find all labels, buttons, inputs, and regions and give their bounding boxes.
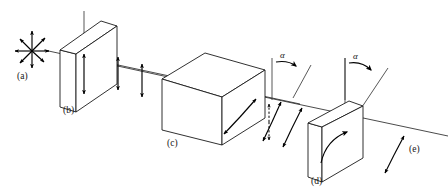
angle-annotation-first — [272, 58, 311, 100]
alpha-label-first: α — [280, 50, 285, 60]
rotated-polarization-arrow-2 — [283, 108, 302, 147]
output-polarization-arrow — [385, 136, 404, 173]
unpolarized-light-star — [15, 31, 49, 68]
optics-canvas: (a) (b) — [0, 0, 448, 192]
label-d: (d) — [311, 176, 322, 187]
optics-diagram: (a) (b) — [0, 0, 448, 192]
label-e: (e) — [409, 144, 420, 155]
alpha-label-second: α — [353, 51, 358, 61]
label-a: (a) — [17, 71, 28, 82]
angle-ref-tilted-2 — [362, 68, 388, 107]
polarizer-plate — [60, 11, 117, 112]
label-b: (b) — [63, 105, 74, 116]
rotated-polarization-group — [263, 102, 302, 147]
angle-annotation-second — [345, 58, 388, 107]
analyzer-plate — [308, 58, 363, 182]
angle-ref-tilted-1 — [293, 65, 311, 98]
rotator-cube — [162, 53, 265, 145]
label-c: (c) — [167, 138, 178, 149]
rotated-polarization-arrow-1 — [263, 102, 281, 141]
